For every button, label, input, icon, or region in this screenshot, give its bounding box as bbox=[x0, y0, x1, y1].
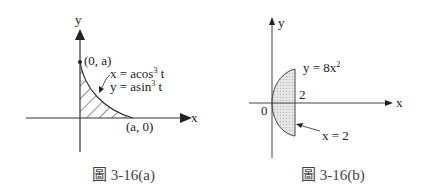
leader-arrow bbox=[101, 75, 110, 89]
figure-b: y x 0 2 y = 8x2 x = 2 圖 3-16(b) bbox=[249, 15, 403, 184]
caption-b: 圖 3-16(b) bbox=[301, 167, 365, 184]
x-axis-label: x bbox=[396, 95, 403, 110]
y-axis-label: y bbox=[75, 12, 82, 27]
origin-label: 0 bbox=[261, 103, 268, 118]
figure-a: y x (0, a) (a, 0) x = acos3 t y = asin3 … bbox=[26, 12, 198, 184]
equation-y: y = asin3 t bbox=[110, 79, 163, 94]
figure-canvas: y x (0, a) (a, 0) x = acos3 t y = asin3 … bbox=[0, 0, 423, 192]
point-label-0-a: (0, a) bbox=[84, 53, 111, 68]
leader-arrow-head-icon bbox=[99, 86, 104, 93]
y-axis-arrow-icon bbox=[269, 17, 275, 25]
line-equation: x = 2 bbox=[322, 128, 349, 143]
point-0-a bbox=[78, 60, 82, 64]
y-axis-arrow-icon bbox=[75, 29, 85, 40]
leader-arrow bbox=[299, 125, 320, 131]
leader-arrow-head-icon bbox=[296, 123, 303, 128]
caption-a: 圖 3-16(a) bbox=[92, 167, 155, 184]
x-axis-arrow-icon bbox=[385, 100, 393, 106]
point-label-a-0: (a, 0) bbox=[126, 119, 153, 134]
parabola-equation: y = 8x2 bbox=[303, 60, 340, 75]
x-axis-label: x bbox=[191, 110, 198, 125]
tick-label-2: 2 bbox=[299, 87, 306, 102]
y-axis-label: y bbox=[278, 15, 285, 30]
